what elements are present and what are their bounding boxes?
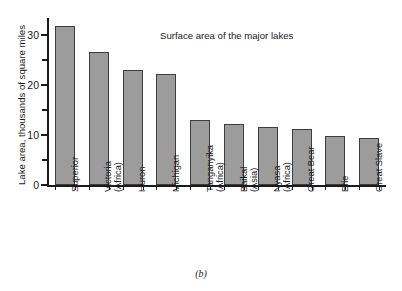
y-tick-major bbox=[41, 184, 48, 185]
y-tick-label: 20 bbox=[27, 80, 39, 91]
y-tick-major bbox=[41, 134, 48, 135]
x-tick-label: Great Slave bbox=[374, 143, 384, 192]
x-tick-label: Baikal(Asia) bbox=[239, 167, 259, 192]
x-tick-label: Tanganyika(Africa) bbox=[205, 145, 225, 192]
y-axis-line bbox=[47, 18, 49, 186]
y-axis-title: Lake area, thousands of square miles bbox=[17, 17, 27, 193]
bar-chart-figure: Surface area of the major lakes Lake are… bbox=[0, 0, 402, 291]
y-tick-minor bbox=[42, 159, 48, 160]
x-tick-label-line1: Baikal bbox=[239, 167, 249, 192]
y-tick-label: 10 bbox=[27, 130, 39, 141]
x-tick bbox=[89, 186, 90, 190]
y-tick-label: 30 bbox=[27, 30, 39, 41]
x-tick-label-line2: (Africa) bbox=[114, 161, 124, 192]
x-tick-label-line1: Michigan bbox=[171, 155, 181, 192]
x-tick bbox=[190, 186, 191, 190]
x-tick-label-line1: Superior bbox=[70, 157, 80, 192]
x-tick-label: Erie bbox=[340, 175, 350, 192]
x-tick-label: Superior bbox=[70, 157, 80, 192]
y-tick-minor bbox=[42, 59, 48, 60]
y-tick-label: 0 bbox=[33, 180, 39, 191]
x-tick bbox=[55, 186, 56, 190]
x-tick bbox=[359, 186, 360, 190]
x-tick-label-line2: (Africa) bbox=[283, 162, 293, 192]
x-tick bbox=[156, 186, 157, 190]
x-tick-label: Nyasa(Africa) bbox=[272, 162, 292, 192]
y-tick-minor bbox=[42, 109, 48, 110]
x-tick-label-line1: Huron bbox=[137, 167, 147, 192]
x-tick-label: Victoria(Africa) bbox=[103, 161, 123, 192]
x-tick-label-line1: Tanganyika bbox=[205, 145, 215, 192]
x-tick-label: Huron bbox=[137, 167, 147, 192]
x-tick-label-line1: Great Bear bbox=[306, 147, 316, 192]
x-tick-label-line1: Great Slave bbox=[374, 143, 384, 192]
x-tick-label-line2: (Africa) bbox=[215, 145, 225, 192]
y-tick-major bbox=[41, 84, 48, 85]
figure-caption: (b) bbox=[0, 268, 402, 279]
y-tick-major bbox=[41, 34, 48, 35]
x-tick-label-line1: Erie bbox=[340, 175, 350, 192]
x-tick-label-line2: (Asia) bbox=[249, 167, 259, 192]
x-tick bbox=[325, 186, 326, 190]
x-tick-label-line1: Victoria bbox=[103, 161, 113, 192]
x-tick-label: Michigan bbox=[171, 155, 181, 192]
chart-title: Surface area of the major lakes bbox=[160, 30, 293, 41]
x-tick-label: Great Bear bbox=[306, 147, 316, 192]
x-tick-label-line1: Nyasa bbox=[272, 166, 282, 192]
